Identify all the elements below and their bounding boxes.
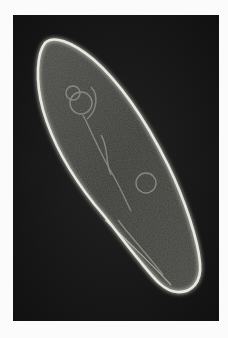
paramecium-image [13,15,219,321]
micrograph-panel [13,15,219,321]
